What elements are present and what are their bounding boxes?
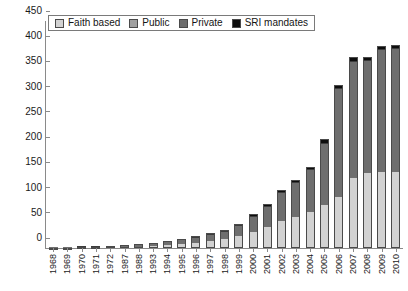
bar-slot: 1994 (160, 21, 174, 248)
y-axis-tick: 250 (25, 107, 46, 117)
y-axis-tick-label: 50 (31, 208, 46, 218)
y-axis-tick: 400 (25, 31, 46, 41)
bar-segment-faith[interactable] (291, 216, 300, 248)
stacked-bar[interactable] (277, 190, 286, 248)
legend-item-faith[interactable]: Faith based (55, 18, 120, 28)
bar-segment-faith[interactable] (320, 204, 329, 248)
legend-item-public[interactable]: Public (129, 18, 169, 28)
x-axis-tick-mark (196, 248, 197, 252)
y-axis-tick: 0 (36, 233, 46, 243)
bar-segment-faith[interactable] (234, 235, 243, 248)
x-axis-tick-label: 1996 (191, 254, 200, 274)
stacked-bar[interactable] (320, 139, 329, 248)
stacked-bar[interactable] (163, 241, 172, 248)
bar-segment-private[interactable] (291, 182, 300, 216)
bar-segment-faith[interactable] (306, 211, 315, 248)
x-axis-tick-mark (67, 248, 68, 252)
x-axis-tick-mark (82, 248, 83, 252)
plot-area: 450400350300250200150100500 196819691970… (45, 21, 403, 249)
x-axis-tick-label: 1972 (106, 254, 115, 274)
bar-segment-private[interactable] (263, 206, 272, 226)
bar-slot: 1970 (75, 21, 89, 248)
bar-segment-faith[interactable] (263, 226, 272, 248)
stacked-bar[interactable] (263, 204, 272, 248)
x-axis-tick-label: 1998 (220, 254, 229, 274)
bar-segment-private[interactable] (334, 88, 343, 196)
bar-slot: 2006 (332, 21, 346, 248)
bar-segment-faith[interactable] (377, 171, 386, 248)
bar-segment-faith[interactable] (391, 171, 400, 248)
x-axis-tick-label: 1970 (77, 254, 86, 274)
bar-segment-private[interactable] (249, 216, 258, 231)
bar-slot: 2007 (346, 21, 360, 248)
x-axis-tick-label: 2008 (363, 254, 372, 274)
bar-segment-private[interactable] (306, 169, 315, 210)
x-axis-tick-mark (353, 248, 354, 252)
bar-slot: 1996 (189, 21, 203, 248)
y-axis-tick-label: 350 (25, 56, 46, 66)
stacked-bar[interactable] (291, 180, 300, 248)
legend-swatch-icon (129, 19, 138, 28)
x-axis-tick-label: 2003 (291, 254, 300, 274)
bar-segment-private[interactable] (234, 225, 243, 235)
bar-segment-private[interactable] (391, 48, 400, 171)
legend-item-sri[interactable]: SRI mandates (232, 18, 308, 28)
bar-slot: 2004 (303, 21, 317, 248)
legend-swatch-icon (55, 19, 64, 28)
stacked-bar[interactable] (220, 230, 229, 248)
stacked-bar[interactable] (334, 85, 343, 248)
stacked-bar[interactable] (349, 57, 358, 248)
bar-segment-private[interactable] (377, 49, 386, 171)
legend-item-label: Faith based (68, 18, 120, 28)
legend-item-private[interactable]: Private (179, 18, 223, 28)
bar-segment-faith[interactable] (363, 172, 372, 248)
x-axis-tick-label: 2002 (277, 254, 286, 274)
x-axis-tick-mark (182, 248, 183, 252)
bar-segment-faith[interactable] (334, 196, 343, 248)
bar-segment-private[interactable] (349, 61, 358, 177)
bar-segment-private[interactable] (320, 143, 329, 205)
stacked-bar-chart: 450400350300250200150100500 196819691970… (0, 0, 408, 291)
stacked-bar[interactable] (191, 236, 200, 248)
bar-slot: 2002 (275, 21, 289, 248)
legend-item-label: SRI mandates (245, 18, 308, 28)
bar-segment-private[interactable] (277, 192, 286, 220)
y-axis-tick-label: 0 (36, 233, 46, 243)
x-axis-tick-mark (225, 248, 226, 252)
stacked-bar[interactable] (391, 45, 400, 248)
x-axis-tick-mark (310, 248, 311, 252)
bar-segment-private[interactable] (220, 231, 229, 238)
x-axis-tick-mark (324, 248, 325, 252)
x-axis-tick-label: 1999 (234, 254, 243, 274)
stacked-bar[interactable] (177, 239, 186, 248)
bar-slot: 2009 (374, 21, 388, 248)
bar-slot: 1993 (146, 21, 160, 248)
bar-segment-faith[interactable] (206, 240, 215, 248)
bar-segment-faith[interactable] (277, 220, 286, 248)
x-axis-tick-mark (110, 248, 111, 252)
x-axis-tick-label: 2000 (249, 254, 258, 274)
bar-segment-faith[interactable] (220, 238, 229, 248)
y-axis-tick-label: 250 (25, 107, 46, 117)
y-axis-tick-label: 200 (25, 132, 46, 142)
bar-slot: 2008 (360, 21, 374, 248)
x-axis-tick-label: 1968 (49, 254, 58, 274)
chart-legend: Faith basedPublicPrivateSRI mandates (48, 15, 315, 31)
bar-segment-faith[interactable] (249, 231, 258, 248)
x-axis-tick-label: 1988 (134, 254, 143, 274)
stacked-bar[interactable] (377, 46, 386, 248)
stacked-bar[interactable] (206, 233, 215, 248)
bar-segment-faith[interactable] (349, 177, 358, 248)
stacked-bar[interactable] (234, 224, 243, 248)
legend-item-label: Public (142, 18, 169, 28)
bar-slot: 1995 (175, 21, 189, 248)
stacked-bar[interactable] (249, 214, 258, 248)
bar-segment-private[interactable] (363, 60, 372, 172)
stacked-bar[interactable] (306, 167, 315, 248)
bar-slot: 2005 (317, 21, 331, 248)
bar-slot: 1969 (60, 21, 74, 248)
x-axis-tick-mark (239, 248, 240, 252)
x-axis-tick-label: 1971 (91, 254, 100, 274)
stacked-bar[interactable] (363, 57, 372, 248)
x-axis-tick-mark (53, 248, 54, 252)
